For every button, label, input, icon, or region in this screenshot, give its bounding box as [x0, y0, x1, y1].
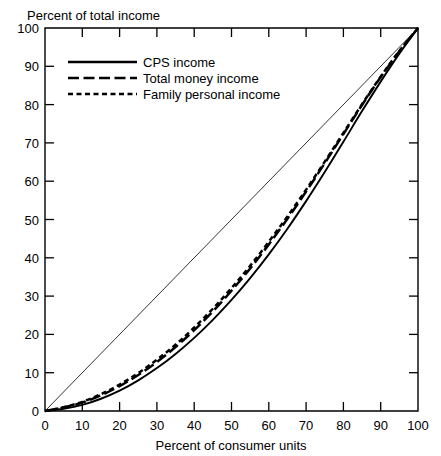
y-tick-label-10: 10 — [25, 366, 39, 381]
x-tick-label-10: 10 — [75, 418, 89, 433]
x-tick-label-30: 30 — [150, 418, 164, 433]
x-tick-label-60: 60 — [262, 418, 276, 433]
y-tick-label-90: 90 — [25, 59, 39, 74]
y-tick-label-50: 50 — [25, 213, 39, 228]
y-axis-title: Percent of total income — [27, 8, 160, 23]
x-tick-label-100: 100 — [407, 418, 429, 433]
x-tick-label-80: 80 — [336, 418, 350, 433]
x-tick-label-0: 0 — [41, 418, 48, 433]
legend-label-0: CPS income — [143, 55, 215, 70]
y-tick-label-80: 80 — [25, 98, 39, 113]
x-tick-label-50: 50 — [224, 418, 238, 433]
y-tick-label-60: 60 — [25, 174, 39, 189]
chart-canvas: Percent of total income 0102030405060708… — [0, 0, 441, 456]
legend-label-1: Total money income — [143, 71, 259, 86]
y-tick-label-40: 40 — [25, 251, 39, 266]
x-tick-label-90: 90 — [373, 418, 387, 433]
chart-legend: CPS incomeTotal money incomeFamily perso… — [68, 55, 280, 102]
y-tick-label-30: 30 — [25, 289, 39, 304]
lorenz-curve-chart: Percent of total income 0102030405060708… — [0, 0, 441, 456]
x-tick-label-40: 40 — [187, 418, 201, 433]
y-tick-label-0: 0 — [32, 404, 39, 419]
x-tick-label-20: 20 — [112, 418, 126, 433]
y-tick-label-70: 70 — [25, 136, 39, 151]
x-axis-title: Percent of consumer units — [155, 438, 307, 453]
y-tick-label-20: 20 — [25, 327, 39, 342]
x-tick-label-70: 70 — [299, 418, 313, 433]
y-tick-label-100: 100 — [17, 21, 39, 36]
legend-label-2: Family personal income — [143, 87, 280, 102]
